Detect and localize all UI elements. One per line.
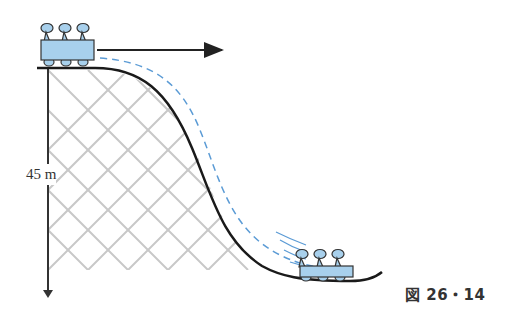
coaster-track: [37, 68, 382, 281]
height-label: 45 m: [26, 164, 56, 185]
figure-caption: 図 26・14: [405, 283, 485, 304]
support-lattice: [0, 70, 408, 270]
roller-coaster-diagram: [0, 0, 528, 323]
top-cart: [41, 24, 94, 67]
bottom-cart: [296, 250, 353, 282]
